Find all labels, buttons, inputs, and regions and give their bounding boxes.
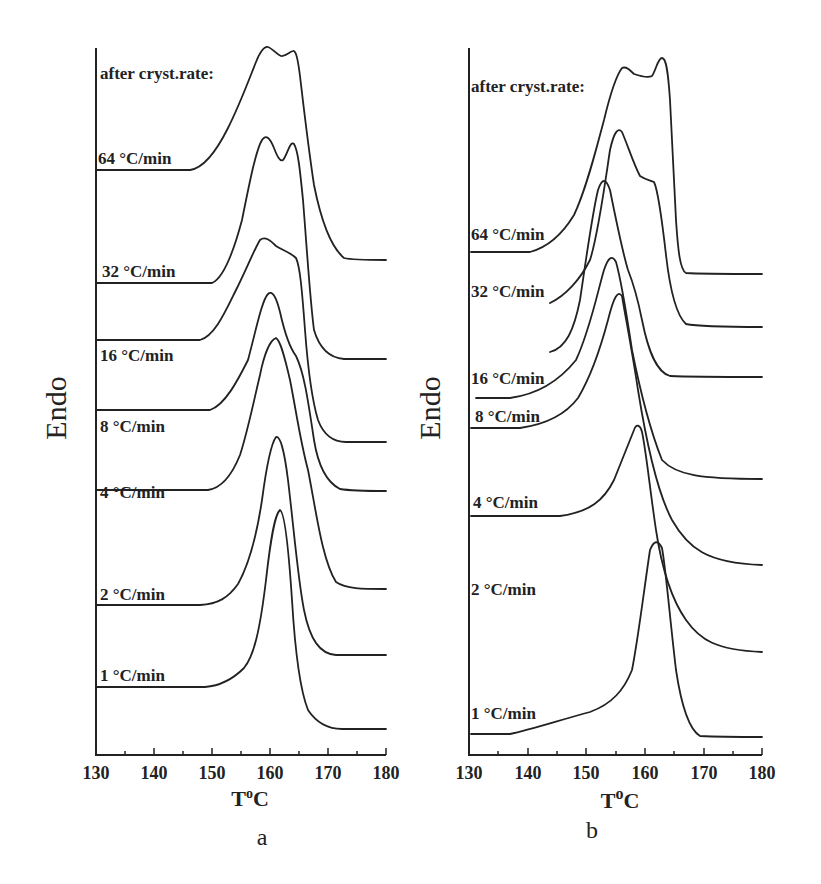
curve-label-b-4: 4 °C/min: [473, 493, 538, 512]
panel-b: 130 140 150 160 170 180 ToC Endo b after…: [413, 48, 776, 843]
panel-b-header: after cryst.rate:: [471, 77, 585, 96]
curve-label-a-8: 8 °C/min: [100, 417, 165, 436]
panel-b-y-label: Endo: [413, 376, 446, 439]
curve-label-b-32: 32 °C/min: [471, 282, 545, 301]
curve-a-4: [96, 338, 386, 589]
panel-a-label: a: [257, 824, 268, 850]
curve-label-b-1: 1 °C/min: [471, 704, 536, 723]
panel-a: 130 140 150 160 170 180 ToC Endo a after…: [39, 47, 400, 850]
tick-label: 140: [141, 763, 168, 783]
tick-label: 150: [573, 763, 600, 783]
tick-label: 130: [83, 763, 110, 783]
curve-label-a-64: 64 °C/min: [98, 149, 172, 168]
tick-label: 160: [257, 763, 284, 783]
curve-label-a-16: 16 °C/min: [100, 346, 174, 365]
curve-a-8: [96, 293, 386, 491]
curve-label-a-4: 4 °C/min: [100, 483, 165, 502]
tick-label: 180: [373, 763, 400, 783]
curve-label-a-32: 32 °C/min: [102, 262, 176, 281]
tick-label: 150: [199, 763, 226, 783]
panel-b-tick-labels: 130 140 150 160 170 180: [456, 763, 776, 783]
curve-label-a-2: 2 °C/min: [100, 585, 165, 604]
curve-label-a-1: 1 °C/min: [100, 666, 165, 685]
dsc-figure: 130 140 150 160 170 180 ToC Endo a after…: [0, 0, 821, 884]
curve-label-b-2: 2 °C/min: [471, 580, 536, 599]
curve-a-1: [96, 510, 386, 729]
tick-label: 180: [749, 763, 776, 783]
curve-b-2: [471, 426, 762, 652]
tick-label: 160: [632, 763, 659, 783]
tick-label: 130: [456, 763, 483, 783]
panel-a-y-label: Endo: [39, 376, 72, 439]
panel-a-header: after cryst.rate:: [100, 64, 214, 83]
curve-a-2: [96, 437, 386, 655]
tick-label: 140: [515, 763, 542, 783]
panel-a-x-label: ToC: [231, 786, 269, 811]
curve-b-32: [550, 130, 762, 327]
panel-a-ticks: [96, 748, 386, 755]
panel-a-tick-labels: 130 140 150 160 170 180: [83, 763, 400, 783]
curve-label-b-16: 16 °C/min: [471, 369, 545, 388]
panel-b-label: b: [586, 817, 598, 843]
tick-label: 170: [691, 763, 718, 783]
curve-label-b-64: 64 °C/min: [471, 225, 545, 244]
panel-b-x-label: ToC: [601, 785, 640, 813]
tick-label: 170: [315, 763, 342, 783]
curve-b-4: [471, 294, 762, 565]
curve-label-b-8: 8 °C/min: [475, 407, 540, 426]
panel-b-ticks: [469, 748, 762, 755]
